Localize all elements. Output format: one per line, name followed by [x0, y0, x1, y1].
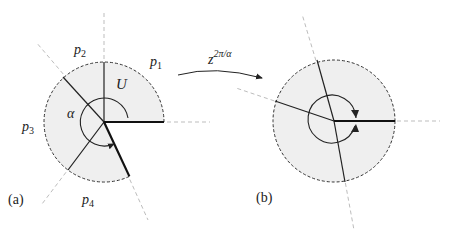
mapping-arrow: z2π/α — [178, 48, 262, 78]
map-label: z2π/α — [207, 48, 232, 67]
label-alpha: α — [67, 106, 75, 121]
label-region-U: U — [116, 76, 128, 92]
panel-a: p2 p1 U α p3 p4 (a) — [8, 12, 210, 220]
conformal-map-diagram: p2 p1 U α p3 p4 (a) z2π/α (b) — [0, 0, 451, 236]
caption-a: (a) — [8, 192, 24, 208]
label-p4: p4 — [81, 192, 94, 209]
label-p2: p2 — [73, 42, 86, 59]
label-p1: p1 — [149, 54, 162, 71]
label-p3: p3 — [21, 119, 34, 136]
panel-b: (b) — [236, 14, 440, 230]
caption-b: (b) — [256, 190, 273, 206]
